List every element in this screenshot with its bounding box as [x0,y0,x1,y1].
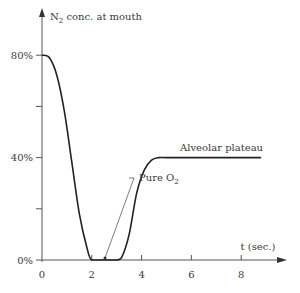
x-tick-label: 0 [39,269,45,280]
alveolar-plateau-label: Alveolar plateau [179,142,264,153]
y-tick-label: 0% [17,255,33,266]
y-axis-label: N2 conc. at mouth [50,11,143,25]
chart-container: 0%40%80% 02468 N2 conc. at mouth t (sec.… [0,0,300,293]
x-axis-label: t (sec.) [241,241,276,252]
x-tick-label: 6 [188,269,194,280]
x-tick-label: 2 [89,269,95,280]
pure-o2-pointer-dot [104,257,107,260]
x-tick-label: 8 [238,269,244,280]
n2-concentration-curve [42,55,261,260]
y-ticks: 0%40%80% [11,50,42,266]
pure-o2-leader-line [105,178,134,258]
x-axis-arrow-icon [277,257,287,263]
y-tick-label: 80% [11,50,33,61]
y-tick-label: 40% [11,152,33,163]
pure-o2-label: Pure O2 [139,172,179,186]
line-chart: 0%40%80% 02468 N2 conc. at mouth t (sec.… [0,0,300,293]
x-ticks: 02468 [39,255,245,280]
y-axis-arrow-icon [39,8,45,17]
x-tick-label: 4 [138,269,144,280]
